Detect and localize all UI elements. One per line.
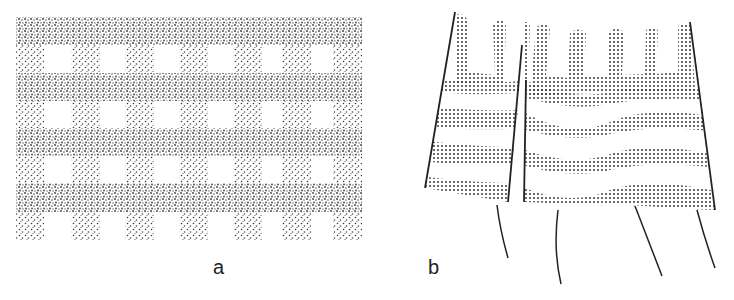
panel-a-woven-grid (0, 0, 380, 250)
panel-b-tapered-textile (400, 0, 734, 300)
panel-b-label: b (428, 256, 439, 279)
panel-a-label: a (213, 256, 224, 279)
wavy-bands-right (520, 78, 720, 212)
hanging-threads (497, 205, 715, 284)
woven-grid-graphic (0, 0, 380, 250)
tapered-textile-graphic (400, 0, 734, 300)
